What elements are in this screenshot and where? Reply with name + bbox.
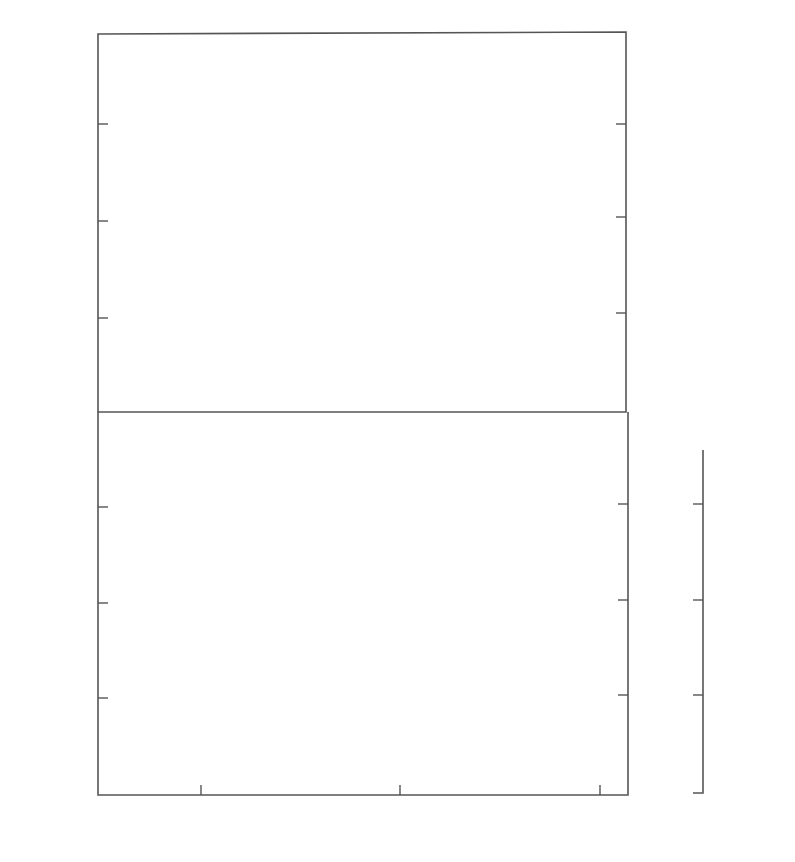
- fractionation-figure: [0, 0, 795, 862]
- x-axis: [201, 785, 600, 795]
- top-panel-frame: [98, 32, 626, 412]
- top-left-axis: [98, 124, 108, 318]
- bottom-panel-frame: [98, 412, 628, 795]
- top-right-axis: [616, 124, 626, 313]
- plot-frames: [98, 32, 703, 795]
- succinate-axis: [693, 504, 770, 695]
- succinate-axis-line: [693, 450, 703, 793]
